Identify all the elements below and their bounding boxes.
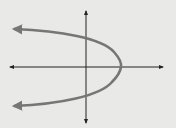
parabola-diagram (0, 0, 176, 128)
